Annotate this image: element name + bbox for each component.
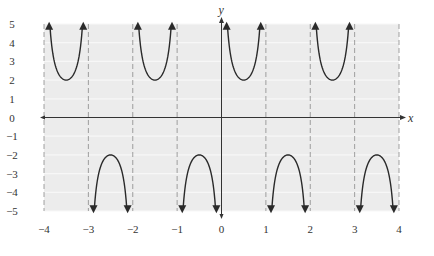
x-tick-label: −4 — [38, 223, 50, 235]
y-axis-arrow-down-icon — [220, 214, 224, 219]
x-tick-label: 1 — [263, 223, 269, 235]
x-tick-label: −2 — [127, 223, 139, 235]
x-axis-arrow-left-icon — [40, 116, 45, 120]
y-tick-label: −4 — [6, 186, 18, 198]
x-tick-label: −3 — [83, 223, 95, 235]
y-tick-label: 1 — [9, 93, 15, 105]
x-tick-label: 3 — [352, 223, 358, 235]
y-tick-label: 3 — [9, 55, 15, 67]
y-axis-arrow-up-icon — [219, 17, 224, 23]
x-tick-label: 4 — [396, 223, 402, 235]
y-tick-label: 0 — [9, 112, 15, 124]
x-tick-label: 2 — [308, 223, 314, 235]
x-axis-arrow-right-icon — [400, 115, 406, 120]
y-tick-label: 2 — [9, 74, 15, 86]
x-axis-label: x — [407, 111, 414, 125]
y-tick-label: 5 — [9, 18, 15, 30]
y-tick-label: 4 — [9, 37, 15, 49]
y-tick-label: −2 — [6, 149, 18, 161]
y-tick-label: −3 — [6, 168, 18, 180]
cosecant-graph: −4−3−2−101234543210−1−2−3−4−5 x y — [0, 0, 434, 256]
y-tick-label: −1 — [6, 130, 18, 142]
x-tick-label: 0 — [219, 223, 225, 235]
x-tick-label: −1 — [171, 223, 183, 235]
y-axis-label: y — [218, 3, 225, 17]
y-tick-label: −5 — [6, 205, 18, 217]
